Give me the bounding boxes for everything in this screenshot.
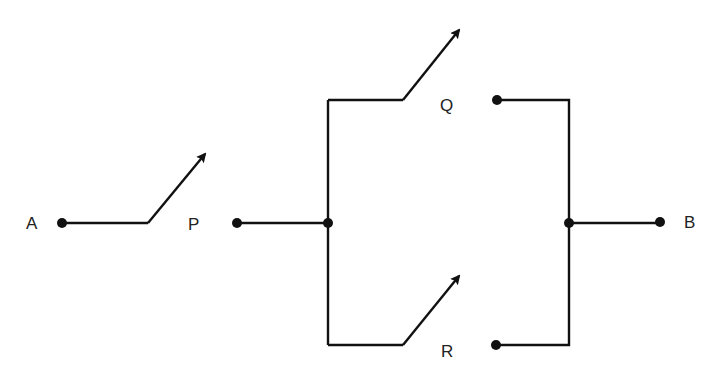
node-b (655, 217, 665, 227)
node-junction-left (323, 218, 333, 228)
label-a: A (26, 214, 38, 233)
label-b: B (684, 213, 695, 232)
switch-arm-q-icon (403, 30, 459, 100)
node-r (491, 340, 501, 350)
node-a (57, 218, 67, 228)
switch-a-p (62, 154, 205, 223)
circuit-diagram: A P Q R B (0, 0, 712, 367)
switch-q (328, 30, 459, 100)
label-p: P (188, 215, 199, 234)
wire-right-bus (496, 100, 569, 345)
node-p (232, 218, 242, 228)
switch-r (328, 276, 459, 345)
label-r: R (441, 342, 453, 361)
label-q: Q (440, 96, 453, 115)
switch-arm-r-icon (403, 276, 459, 345)
switch-arm-a-icon (148, 154, 205, 223)
node-junction-right (564, 218, 574, 228)
node-q (492, 95, 502, 105)
